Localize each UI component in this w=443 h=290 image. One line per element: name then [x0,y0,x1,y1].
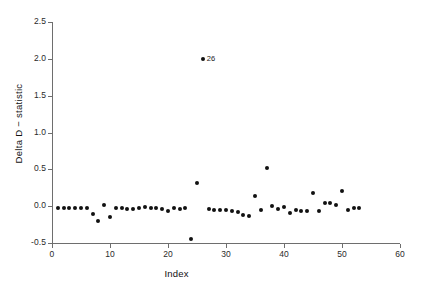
data-point [218,208,222,212]
y-tick [48,133,52,134]
data-point [160,207,164,211]
data-point [259,208,263,212]
y-tick [48,96,52,97]
x-tick [52,244,53,248]
data-point [305,209,309,213]
y-tick-label: 1.0 [2,128,46,137]
data-point [189,237,193,241]
data-point [149,206,153,210]
y-tick [48,22,52,23]
chart-figure: -0.50.00.51.01.52.02.5 0102030405060 26 … [0,0,443,290]
x-tick-label: 50 [330,250,354,259]
data-point [125,207,129,211]
data-point [340,189,344,193]
x-tick-label: 30 [214,250,238,259]
x-axis-title: Index [0,268,443,279]
y-tick [48,206,52,207]
data-point [230,209,234,213]
data-point [352,206,356,210]
data-point [96,219,100,223]
data-point [328,201,332,205]
data-point [346,208,350,212]
data-point [79,206,83,210]
y-tick-label: -0.5 [2,238,46,247]
data-point [67,206,71,210]
y-tick [48,169,52,170]
data-point [102,203,106,207]
x-tick [168,244,169,248]
point-label: 26 [207,55,215,63]
data-point [73,206,77,210]
y-axis-line [52,22,53,244]
y-tick-label: 0.5 [2,164,46,173]
data-point [317,209,321,213]
data-point [323,201,327,205]
data-point [334,203,338,207]
data-point [183,206,187,210]
y-axis-title: Delta D − statistic [13,44,24,204]
data-point [143,205,147,209]
x-tick [342,244,343,248]
x-tick-label: 60 [388,250,412,259]
data-point [120,206,124,210]
data-point [294,208,298,212]
data-point [276,207,280,211]
data-point [224,208,228,212]
data-point [131,207,135,211]
x-tick [226,244,227,248]
x-tick [284,244,285,248]
data-point [62,206,66,210]
data-point [357,206,361,210]
y-tick [48,59,52,60]
data-point [154,206,158,210]
data-point [207,207,211,211]
data-point [236,210,240,214]
data-point [114,206,118,210]
x-tick [110,244,111,248]
data-point [108,215,112,219]
data-point [178,207,182,211]
x-tick-label: 20 [156,250,180,259]
data-point [241,213,245,217]
data-point [201,57,205,61]
x-tick-label: 40 [272,250,296,259]
y-tick-label: 2.0 [2,54,46,63]
data-point [288,211,292,215]
data-point [282,205,286,209]
data-point [270,204,274,208]
data-point [311,191,315,195]
y-tick-label: 2.5 [2,17,46,26]
data-point [166,209,170,213]
scatter-plot-area: -0.50.00.51.01.52.02.5 0102030405060 26 … [0,0,443,290]
x-tick-label: 10 [98,250,122,259]
y-tick-label: 1.5 [2,91,46,100]
y-tick-label: 0.0 [2,201,46,210]
data-point [137,206,141,210]
x-axis-title-text: Index [164,268,188,279]
data-point [247,214,251,218]
data-point [195,181,199,185]
data-point [253,194,257,198]
x-tick-label: 0 [40,250,64,259]
x-tick [400,244,401,248]
data-point [212,208,216,212]
data-point [56,206,60,210]
data-point [299,209,303,213]
data-point [172,206,176,210]
data-point [85,206,89,210]
data-point [265,166,269,170]
data-point [91,212,95,216]
